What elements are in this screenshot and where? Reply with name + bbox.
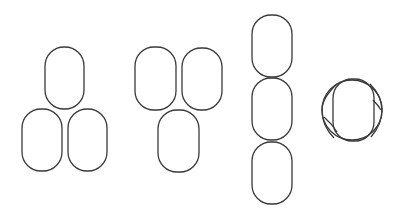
oval-1 — [333, 79, 374, 141]
group-triangle-one-top-two-bottom — [22, 47, 107, 171]
outline-circle — [322, 80, 382, 140]
oval-1 — [252, 15, 292, 77]
group-end-on-view — [322, 79, 382, 141]
oval-1 — [135, 47, 176, 110]
oval-3 — [158, 110, 199, 172]
oval-1 — [45, 47, 84, 109]
oval-2 — [182, 48, 222, 110]
oval-2 — [252, 78, 292, 140]
oval-3 — [68, 109, 107, 171]
group-triangle-two-top-one-bottom — [135, 47, 222, 172]
group-vertical-stack — [252, 15, 292, 204]
oval-arrangement-diagram — [0, 0, 401, 217]
oval-3 — [252, 142, 292, 204]
oval-2 — [22, 109, 62, 171]
